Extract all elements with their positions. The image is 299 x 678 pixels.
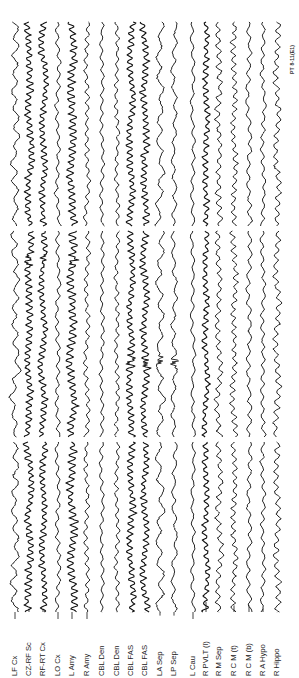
channel-label: CBL FAS (127, 645, 135, 676)
eeg-trace (55, 442, 61, 612)
eeg-trace (214, 231, 223, 437)
eeg-trace (190, 231, 196, 437)
channel-label: L Amy (68, 655, 76, 676)
eeg-trace (114, 442, 120, 612)
channel-label: R Hippo (273, 649, 281, 676)
channel-label: CZ-RF Sc (25, 642, 33, 676)
channel-label: LO Cx (54, 654, 62, 676)
eeg-figure: LF Cx CZ-RF Sc RF-RT Cx LO Cx L Amy R Am… (0, 0, 299, 678)
eeg-trace (99, 442, 104, 612)
channel-label: CBL FAS (141, 645, 149, 676)
eeg-trace (215, 442, 224, 612)
eeg-trace (155, 22, 165, 226)
eeg-trace (171, 22, 178, 226)
channel-label: LF Cx (11, 656, 19, 676)
channel-label: L Cau (189, 656, 197, 676)
eeg-trace (260, 442, 266, 612)
channel-label: R C M (b) (245, 643, 253, 676)
eeg-trace (202, 442, 210, 612)
eeg-trace (83, 22, 91, 226)
channel-label: R Amy (83, 654, 91, 676)
eeg-trace (246, 22, 253, 226)
eeg-trace (10, 442, 19, 612)
eeg-trace (66, 231, 79, 437)
channel-label: CBL Den (113, 645, 121, 676)
eeg-trace (55, 231, 61, 437)
eeg-trace (260, 231, 266, 437)
eeg-trace (140, 22, 150, 226)
eeg-trace (230, 22, 238, 226)
eeg-trace (202, 231, 210, 437)
eeg-trace (230, 231, 239, 437)
eeg-trace (24, 22, 35, 226)
eeg-trace (114, 22, 120, 226)
eeg-trace (171, 231, 179, 437)
eeg-trace (127, 442, 137, 612)
eeg-trace (190, 22, 196, 226)
figure-annotation: PT 8-11(E1) (289, 45, 295, 74)
channel-label: R M Sep (215, 646, 223, 676)
eeg-trace (231, 442, 238, 612)
eeg-trace (10, 22, 19, 226)
eeg-trace (214, 22, 222, 226)
eeg-trace (54, 22, 61, 226)
eeg-trace (155, 442, 165, 612)
eeg-trace (171, 442, 178, 612)
eeg-trace (84, 442, 90, 612)
eeg-trace (66, 22, 77, 226)
eeg-trace (126, 22, 136, 226)
eeg-trace (99, 231, 105, 437)
eeg-trace (66, 442, 78, 612)
eeg-trace (202, 22, 210, 226)
channel-label: LA Sep (156, 652, 164, 677)
eeg-trace (126, 231, 135, 437)
eeg-trace (273, 22, 282, 226)
eeg-trace (114, 231, 120, 437)
eeg-trace (140, 231, 152, 437)
eeg-traces-plot (0, 0, 299, 678)
eeg-trace (246, 442, 252, 612)
eeg-trace (24, 231, 34, 437)
eeg-trace (83, 231, 90, 437)
channel-label: LP Sep (170, 651, 178, 676)
eeg-trace (140, 442, 150, 612)
channel-label: RF-RT Cx (39, 642, 47, 676)
eeg-trace (23, 442, 34, 612)
eeg-trace (99, 22, 104, 226)
eeg-trace (191, 442, 196, 612)
channel-label: R C M (t) (230, 645, 238, 676)
eeg-trace (38, 22, 48, 226)
eeg-trace (260, 22, 266, 226)
eeg-trace (9, 231, 22, 437)
eeg-trace (38, 231, 48, 437)
eeg-trace (273, 442, 282, 612)
eeg-trace (273, 231, 282, 437)
channel-label: R PVLT (l) (202, 641, 210, 676)
channel-label: CBL Den (98, 645, 106, 676)
eeg-trace (39, 442, 48, 612)
eeg-trace (246, 231, 252, 437)
eeg-trace (156, 231, 166, 437)
channel-label: R A Hypo (259, 644, 267, 676)
